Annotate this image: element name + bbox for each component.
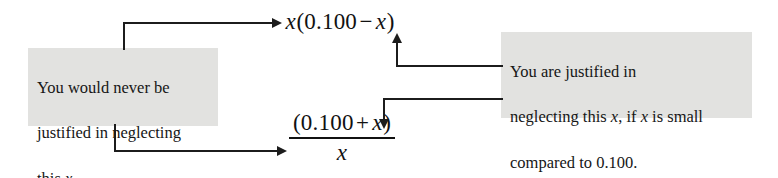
callout-left-line-1: You would never be (37, 77, 209, 100)
connector-right-to-numerator-arrowhead (379, 119, 389, 129)
numerator-constant: 0.100 (301, 110, 354, 135)
top-expression: x(0.100−x) (285, 9, 394, 35)
connector-left-to-top-expression-arrowhead (272, 18, 282, 28)
top-expression-lead-x: x (285, 9, 296, 34)
connector-left-to-top-expression-run (123, 22, 273, 24)
top-expression-constant: 0.100 (304, 9, 357, 34)
numerator-operator: + (354, 110, 372, 135)
callout-right-variable-x-2: x (641, 107, 648, 126)
connector-right-to-numerator-run (383, 98, 503, 100)
figure-canvas: x(0.100−x) (0.100+x) x You would never b… (0, 0, 778, 178)
connector-left-to-top-expression-riser (123, 22, 125, 50)
callout-right-line-2-text-b: , if (618, 107, 640, 126)
callout-left-line-2-text: justified in neglecting (37, 123, 181, 142)
bottom-fraction-denominator: x (289, 139, 395, 166)
callout-left-line-3-text: this (37, 169, 65, 178)
connector-right-to-top-expression-riser (396, 42, 398, 66)
callout-left-line-2: justified in neglecting (37, 122, 209, 145)
connector-left-to-denominator-arrowhead (277, 146, 287, 156)
bottom-fraction-denominator-x: x (336, 140, 347, 165)
callout-right-line-2: neglecting this x, if x is small (510, 106, 743, 129)
callout-right-line-1: You are justified in (510, 61, 743, 84)
callout-never-justified: You would never be justified in neglecti… (28, 48, 218, 126)
numerator-open-paren: ( (293, 110, 301, 135)
top-expression-operator: − (357, 9, 375, 34)
connector-left-to-denominator-run (114, 150, 278, 152)
callout-justified: You are justified in neglecting this x, … (501, 32, 752, 118)
callout-right-line-3: compared to 0.100. (510, 152, 743, 175)
connector-right-to-numerator-riser (383, 98, 385, 120)
connector-right-to-top-expression-run (396, 65, 503, 67)
top-expression-close-paren: ) (387, 9, 395, 34)
callout-right-line-2-text-c: is small (648, 107, 703, 126)
top-expression-term-x: x (375, 9, 386, 34)
connector-left-to-denominator-riser (114, 124, 116, 152)
callout-left-line-3-period: . (72, 169, 76, 178)
callout-left-line-3: this x. (37, 168, 209, 178)
callout-right-line-2-text-a: neglecting this (510, 107, 611, 126)
connector-right-to-top-expression-arrowhead (392, 33, 402, 43)
